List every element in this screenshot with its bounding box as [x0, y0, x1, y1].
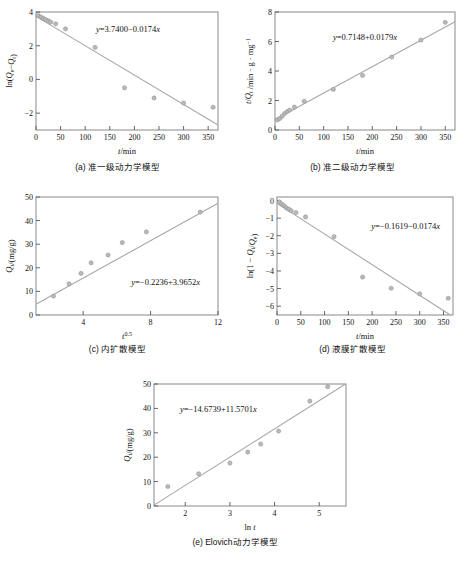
svg-text:200: 200 [366, 133, 378, 142]
svg-text:−3: −3 [265, 249, 274, 258]
svg-text:40: 40 [143, 404, 151, 413]
svg-text:−2: −2 [24, 109, 33, 118]
svg-text:−6: −6 [265, 302, 274, 311]
svg-text:t/min: t/min [356, 331, 375, 341]
svg-text:350: 350 [439, 133, 451, 142]
svg-text:ln(Qe−Qt): ln(Qe−Qt) [4, 54, 18, 88]
svg-text:0: 0 [29, 311, 33, 320]
svg-text:0: 0 [270, 197, 274, 206]
svg-text:50: 50 [57, 133, 65, 142]
panel-c-caption: (c) 内扩散模型 [0, 342, 235, 354]
panel-b-caption: (b) 准二级动力学模型 [235, 160, 470, 172]
svg-text:250: 250 [390, 318, 402, 327]
svg-text:8: 8 [268, 8, 272, 17]
svg-text:30: 30 [25, 240, 33, 249]
svg-text:−5: −5 [265, 285, 274, 294]
svg-text:t/min: t/min [118, 146, 137, 156]
panel-e-caption: (e) Elovich动力学模型 [110, 535, 360, 547]
svg-text:50: 50 [143, 380, 151, 389]
svg-text:30: 30 [143, 429, 151, 438]
svg-text:y=−0.2236+3.9652x: y=−0.2236+3.9652x [130, 277, 200, 287]
svg-text:−2: −2 [265, 232, 274, 241]
svg-text:−1: −1 [265, 214, 274, 223]
panel-d-plot: 0501001502002503003500−1−2−3−4−5−6t/minl… [235, 185, 470, 345]
svg-text:12: 12 [214, 318, 222, 327]
svg-text:y=3.7400−0.0174x: y=3.7400−0.0174x [95, 24, 160, 34]
svg-text:150: 150 [342, 318, 354, 327]
svg-text:0: 0 [273, 133, 277, 142]
svg-text:2: 2 [268, 97, 272, 106]
svg-text:y=0.7148+0.0179x: y=0.7148+0.0179x [332, 32, 397, 42]
panel-a: 050100150200250300350−2024t/minln(Qe−Qt)… [0, 0, 235, 180]
svg-text:y=−14.6739+11.5701x: y=−14.6739+11.5701x [179, 404, 257, 414]
svg-text:−4: −4 [265, 267, 274, 276]
svg-text:150: 150 [104, 133, 116, 142]
svg-text:100: 100 [79, 133, 91, 142]
svg-text:200: 200 [128, 133, 140, 142]
svg-text:10: 10 [25, 287, 33, 296]
svg-text:100: 100 [318, 133, 330, 142]
panel-a-plot: 050100150200250300350−2024t/minln(Qe−Qt)… [0, 0, 235, 160]
svg-text:300: 300 [178, 133, 190, 142]
svg-text:300: 300 [414, 318, 426, 327]
svg-text:50: 50 [295, 133, 303, 142]
svg-text:20: 20 [143, 453, 151, 462]
svg-text:200: 200 [366, 318, 378, 327]
panel-e: 234501020304050ln tQt/(mg/g)y=−14.6739+1… [110, 372, 360, 557]
svg-text:4: 4 [81, 318, 85, 327]
svg-text:350: 350 [202, 133, 214, 142]
svg-text:4: 4 [29, 8, 33, 17]
panel-d: 0501001502002503003500−1−2−3−4−5−6t/minl… [235, 185, 470, 365]
panel-e-plot: 234501020304050ln tQt/(mg/g)y=−14.6739+1… [110, 372, 360, 537]
panel-b-plot: 05010015020025030035002468t/mint/Qt /min… [235, 0, 470, 160]
svg-text:5: 5 [317, 509, 321, 518]
svg-text:Qt/(mg/g): Qt/(mg/g) [4, 239, 16, 272]
panel-c: 481201020304050t0.5Qt/(mg/g)y=−0.2236+3.… [0, 185, 235, 365]
svg-text:250: 250 [153, 133, 165, 142]
svg-text:300: 300 [415, 133, 427, 142]
svg-text:y=−0.1619−0.0174x: y=−0.1619−0.0174x [370, 221, 440, 231]
svg-text:50: 50 [25, 193, 33, 202]
svg-text:Qt/(mg/g): Qt/(mg/g) [122, 428, 134, 461]
svg-text:0: 0 [147, 502, 151, 511]
svg-text:100: 100 [319, 318, 331, 327]
svg-text:2: 2 [29, 42, 33, 51]
svg-text:4: 4 [273, 509, 277, 518]
svg-text:150: 150 [342, 133, 354, 142]
svg-text:0: 0 [29, 75, 33, 84]
svg-text:350: 350 [437, 318, 449, 327]
svg-text:2: 2 [183, 509, 187, 518]
svg-text:t0.5: t0.5 [122, 331, 132, 341]
svg-text:ln(1 − Qt/Qe): ln(1 − Qt/Qe) [245, 234, 259, 279]
svg-text:250: 250 [391, 133, 403, 142]
svg-text:0: 0 [34, 133, 38, 142]
svg-text:3: 3 [228, 509, 232, 518]
svg-text:0: 0 [268, 126, 272, 135]
panel-d-caption: (d) 液膜扩散模型 [235, 342, 470, 354]
panel-a-caption: (a) 准一级动力学模型 [0, 160, 235, 172]
panel-c-plot: 481201020304050t0.5Qt/(mg/g)y=−0.2236+3.… [0, 185, 235, 345]
svg-text:6: 6 [268, 38, 272, 47]
svg-text:8: 8 [149, 318, 153, 327]
svg-text:50: 50 [297, 318, 305, 327]
svg-text:40: 40 [25, 217, 33, 226]
panel-b: 05010015020025030035002468t/mint/Qt /min… [235, 0, 470, 180]
svg-text:20: 20 [25, 264, 33, 273]
svg-text:4: 4 [268, 67, 272, 76]
svg-text:ln t: ln t [244, 522, 256, 532]
svg-text:0: 0 [275, 318, 279, 327]
svg-text:t/min: t/min [356, 146, 375, 156]
svg-text:10: 10 [143, 478, 151, 487]
svg-text:t/Qt /min · g · mg−1: t/Qt /min · g · mg−1 [243, 38, 255, 104]
